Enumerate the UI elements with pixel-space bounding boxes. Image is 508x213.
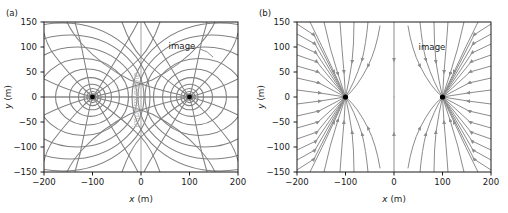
x-axis-title-b: x(m) bbox=[381, 194, 406, 204]
well-marker-left-a bbox=[90, 95, 95, 100]
panel-label-b: (b) bbox=[259, 8, 271, 18]
y-tick-label-150-a: 150 bbox=[21, 17, 37, 27]
x-tick-label--100-a: −100 bbox=[81, 177, 105, 187]
x-tick-label-200-b: 200 bbox=[483, 177, 499, 187]
y-tick-label-100-a: 100 bbox=[21, 42, 37, 52]
panel-a-svg: impermeable image −200 −100 0 100 200 bbox=[0, 0, 254, 213]
y-tick-label-50-b: 50 bbox=[279, 67, 290, 77]
y-tick-label--50-b: −50 bbox=[272, 117, 290, 127]
y-ticks-b bbox=[294, 22, 298, 172]
impermeable-label: impermeable bbox=[131, 72, 141, 128]
y-tick-label-150-b: 150 bbox=[274, 17, 290, 27]
figure-container: impermeable image −200 −100 0 100 200 bbox=[0, 0, 508, 213]
y-ticks-a bbox=[41, 22, 45, 172]
x-tick-label--200-b: −200 bbox=[285, 177, 309, 187]
x-tick-label-200-a: 200 bbox=[230, 177, 246, 187]
x-axis-title-a: x(m) bbox=[128, 194, 153, 204]
image-annotation-b: image bbox=[419, 42, 446, 52]
x-tick-label--100-b: −100 bbox=[334, 177, 358, 187]
y-tick-label--150-b: −150 bbox=[266, 167, 290, 177]
y-tick-label-50-a: 50 bbox=[26, 67, 37, 77]
well-marker-left-b bbox=[343, 94, 348, 99]
panel-b-svg: image −200 −100 0 100 200 bbox=[254, 0, 508, 213]
x-tick-label-0-b: 0 bbox=[391, 177, 396, 187]
x-tick-label-0-a: 0 bbox=[138, 177, 143, 187]
y-tick-label--150-a: −150 bbox=[13, 167, 37, 177]
y-tick-label-0-a: 0 bbox=[32, 92, 37, 102]
y-tick-label--100-a: −100 bbox=[13, 142, 37, 152]
x-tick-label-100-a: 100 bbox=[181, 177, 197, 187]
y-tick-label-100-b: 100 bbox=[274, 42, 290, 52]
panel-b: image −200 −100 0 100 200 bbox=[254, 0, 508, 213]
y-tick-label--100-b: −100 bbox=[266, 142, 290, 152]
panel-label-a: (a) bbox=[6, 8, 18, 18]
y-axis-title-b: y(m) bbox=[256, 85, 266, 110]
y-tick-label-0-b: 0 bbox=[285, 92, 290, 102]
x-ticks-b bbox=[297, 172, 491, 176]
well-marker-right-a bbox=[187, 95, 192, 100]
y-axis-title-a: y(m) bbox=[3, 85, 13, 110]
well-marker-right-b bbox=[440, 94, 445, 99]
x-ticks-a bbox=[44, 172, 238, 176]
x-tick-label--200-a: −200 bbox=[32, 177, 56, 187]
x-tick-label-100-b: 100 bbox=[434, 177, 450, 187]
image-annotation-a: image bbox=[169, 41, 196, 51]
panel-a: impermeable image −200 −100 0 100 200 bbox=[0, 0, 254, 213]
y-tick-label--50-a: −50 bbox=[19, 117, 37, 127]
